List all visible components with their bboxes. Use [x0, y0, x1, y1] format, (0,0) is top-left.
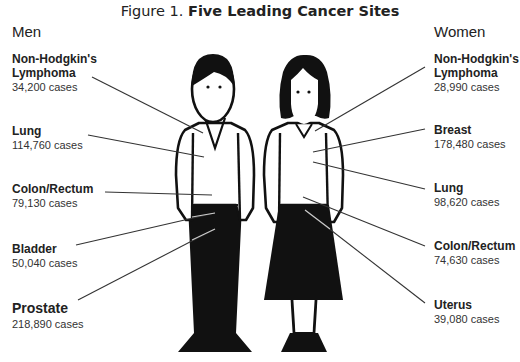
woman-eye-left: [296, 90, 299, 93]
woman-figure: [264, 55, 343, 352]
man-figure: [176, 54, 254, 352]
woman-eye-right: [307, 90, 310, 93]
figures-illustration: [0, 0, 520, 362]
man-eye-right: [218, 85, 221, 88]
woman-feet: [281, 333, 327, 352]
man-eye-left: [206, 85, 209, 88]
man-pants: [178, 205, 252, 352]
